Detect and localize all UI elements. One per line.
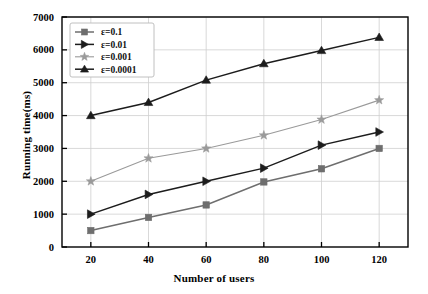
svg-text:5000: 5000	[33, 77, 54, 88]
svg-text:3000: 3000	[33, 143, 54, 154]
y-axis-title: Running time(ms)	[20, 55, 32, 215]
svg-text:1000: 1000	[33, 209, 54, 220]
chart-figure: 01000200030004000500060007000 2040608010…	[0, 0, 428, 294]
svg-text:7000: 7000	[33, 12, 54, 23]
line-chart: 01000200030004000500060007000 2040608010…	[0, 0, 428, 294]
svg-text:80: 80	[259, 254, 270, 265]
svg-text:20: 20	[86, 254, 97, 265]
chart-legend: ε=0.1ε=0.01ε=0.001ε=0.0001	[70, 23, 154, 77]
y-axis-tick-labels: 01000200030004000500060007000	[33, 12, 54, 253]
svg-text:60: 60	[201, 254, 212, 265]
svg-text:100: 100	[314, 254, 330, 265]
svg-text:2000: 2000	[33, 176, 54, 187]
svg-text:40: 40	[143, 254, 154, 265]
svg-text:ε=0.001: ε=0.001	[101, 52, 132, 62]
svg-text:6000: 6000	[33, 44, 54, 55]
svg-text:120: 120	[371, 254, 387, 265]
svg-text:ε=0.0001: ε=0.0001	[101, 65, 137, 75]
svg-text:ε=0.1: ε=0.1	[101, 27, 123, 37]
svg-text:0: 0	[49, 242, 54, 253]
svg-text:ε=0.01: ε=0.01	[101, 40, 127, 50]
x-axis-tick-labels: 20406080100120	[86, 254, 387, 265]
x-axis-title: Number of users	[0, 272, 428, 284]
svg-text:4000: 4000	[33, 110, 54, 121]
